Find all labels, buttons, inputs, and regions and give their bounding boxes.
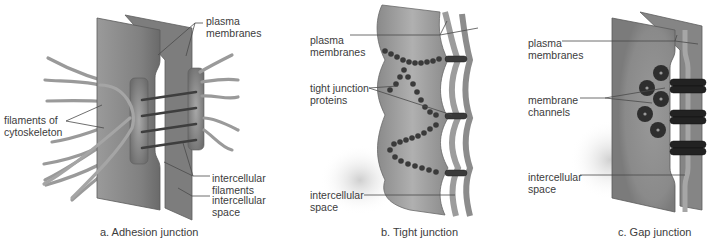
label-intercellular-space-b: intercellular space (310, 189, 364, 213)
caption-gap-junction: c. Gap junction (618, 226, 691, 238)
label-filaments-of-cytoskeleton: filaments of cytoskeleton (4, 114, 62, 138)
gap-junction-illustration (480, 0, 709, 246)
caption-adhesion-junction: a. Adhesion junction (100, 226, 198, 238)
caption-tight-junction: b. Tight junction (381, 226, 458, 238)
label-intercellular-space-c: intercellular space (528, 171, 582, 195)
panel-adhesion-junction: plasma membranes filaments of cytoskelet… (0, 0, 240, 246)
panel-tight-junction: plasma membranes tight junction proteins… (240, 0, 480, 246)
cytoskeleton-filaments-right (200, 55, 238, 150)
panel-gap-junction: plasma membranes membrane channels inter… (480, 0, 709, 246)
label-plasma-membranes-c: plasma membranes (528, 37, 583, 61)
label-plasma-membranes-b: plasma membranes (310, 34, 365, 58)
label-membrane-channels: membrane channels (528, 94, 578, 118)
label-tight-junction-proteins: tight junction proteins (310, 82, 369, 106)
